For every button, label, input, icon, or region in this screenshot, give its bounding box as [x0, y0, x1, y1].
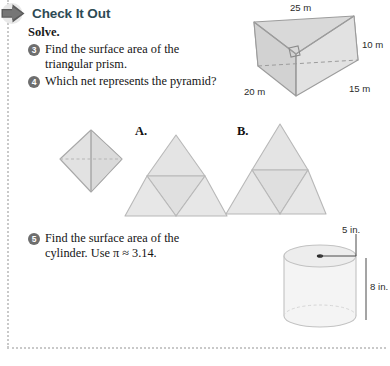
prism-label-right: 10 m — [362, 39, 383, 50]
prism-label-top: 25 m — [290, 2, 311, 13]
panel-bottom-dotted-border — [7, 347, 386, 349]
check-it-out-header: Check It Out — [0, 2, 110, 25]
triangular-prism-figure: 25 m 10 m 15 m 20 m — [236, 4, 390, 108]
page-title: Check It Out — [32, 6, 110, 21]
instruction-label: Solve. — [28, 25, 60, 40]
problem-number-badge: 4 — [28, 76, 40, 88]
pyramid-net-b-figure[interactable] — [218, 122, 328, 220]
problem-number-badge: 5 — [28, 233, 40, 245]
problem-item-5: 5 Find the surface area of the cylinder.… — [28, 231, 193, 261]
pyramid-net-a-figure[interactable] — [122, 130, 230, 220]
cylinder-figure: 5 in. 8 in. — [262, 228, 390, 344]
right-arrow-icon — [0, 2, 27, 25]
prism-label-bottom-right: 15 m — [349, 83, 370, 94]
cylinder-label-radius: 5 in. — [342, 224, 360, 235]
problem-text: Find the surface area of the triangular … — [45, 42, 203, 72]
prism-label-bottom-left: 20 m — [244, 86, 265, 97]
cylinder-label-height: 8 in. — [370, 281, 388, 292]
panel-left-dotted-border — [7, 0, 9, 348]
problem-text: Which net represents the pyramid? — [45, 74, 216, 89]
problem-text: Find the surface area of the cylinder. U… — [45, 231, 193, 261]
octahedron-figure — [56, 128, 126, 194]
problem-number-badge: 3 — [28, 44, 40, 56]
problem-item-3: 3 Find the surface area of the triangula… — [28, 42, 203, 72]
problem-item-4: 4 Which net represents the pyramid? — [28, 74, 218, 89]
